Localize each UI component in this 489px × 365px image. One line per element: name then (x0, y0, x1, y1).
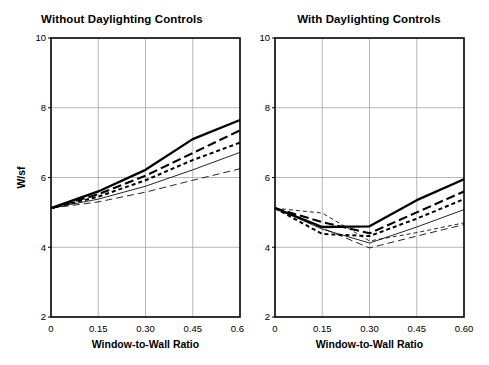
x-tick-label: 0.45 (408, 323, 427, 334)
chart-panel-without-daylighting: Without Daylighting Controls 10864200.15… (0, 0, 244, 365)
y-tick-label: 8 (41, 102, 46, 113)
x-tick-label: 0.45 (184, 323, 203, 334)
y-tick-label: 6 (265, 172, 270, 183)
x-tick-label: 0.30 (360, 323, 379, 334)
x-tick-label: 0.60 (231, 323, 244, 334)
y-tick-label: 10 (259, 32, 270, 43)
y-tick-label: 10 (35, 32, 46, 43)
y-tick-label: 2 (265, 311, 270, 322)
y-tick-label: 6 (41, 172, 46, 183)
x-tick-label: 0.15 (89, 323, 108, 334)
y-tick-label: 4 (41, 242, 46, 253)
y-tick-label: 4 (265, 242, 270, 253)
figure-root: Without Daylighting Controls 10864200.15… (0, 0, 489, 365)
y-tick-label: 2 (41, 311, 46, 322)
plot-area-without-daylighting: 10864200.150.300.450.60Window-to-Wall Ra… (0, 0, 244, 365)
x-tick-label: 0 (272, 323, 277, 334)
y-axis-label: W/sf (15, 166, 27, 189)
chart-panel-with-daylighting: With Daylighting Controls 10864200.150.3… (245, 0, 489, 365)
x-tick-label: 0 (48, 323, 53, 334)
x-axis-label: Window-to-Wall Ratio (316, 338, 423, 350)
x-tick-label: 0.15 (313, 323, 332, 334)
plot-area-with-daylighting: 10864200.150.300.450.60Window-to-Wall Ra… (245, 0, 489, 365)
x-tick-label: 0.60 (455, 323, 474, 334)
y-tick-label: 8 (265, 102, 270, 113)
x-axis-label: Window-to-Wall Ratio (92, 338, 199, 350)
x-tick-label: 0.30 (136, 323, 155, 334)
